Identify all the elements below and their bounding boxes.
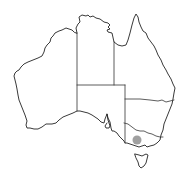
australia-map (0, 0, 185, 180)
location-marker (133, 136, 142, 145)
tasmania-coastline (135, 154, 148, 168)
mainland-coastline (14, 14, 175, 147)
